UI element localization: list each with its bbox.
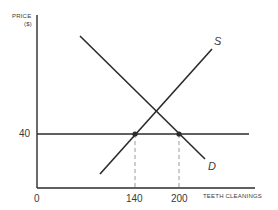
x-axis-label: TEETH CLEANINGS xyxy=(203,193,262,199)
chart-canvas xyxy=(0,0,278,210)
supply-curve xyxy=(100,49,212,174)
x-tick-200: 200 xyxy=(171,193,188,204)
x-tick-140: 140 xyxy=(126,193,143,204)
y-tick-40: 40 xyxy=(19,128,30,139)
y-axis-label-line2: ($) xyxy=(24,21,32,27)
point-200-40 xyxy=(176,131,181,136)
demand-curve xyxy=(80,36,205,159)
y-axis-label-line1: PRICE xyxy=(12,13,31,19)
demand-label: D xyxy=(208,160,216,172)
point-140-40 xyxy=(132,131,137,136)
origin-label: 0 xyxy=(34,193,40,204)
supply-label: S xyxy=(214,35,221,47)
